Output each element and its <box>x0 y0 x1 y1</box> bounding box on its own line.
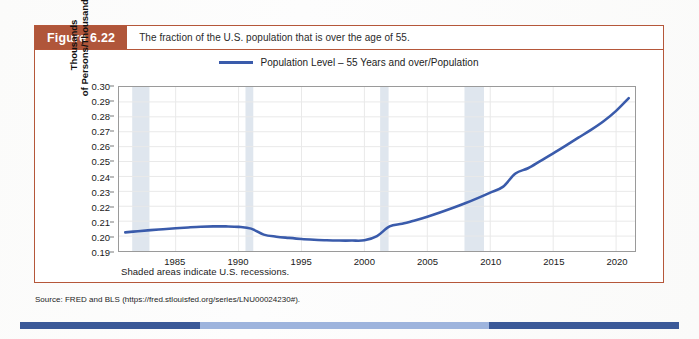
x-tick-label: 2015 <box>543 256 564 267</box>
y-tick-mark <box>110 146 114 147</box>
y-tick-label: 0.26 <box>92 141 111 152</box>
y-tick-label: 0.25 <box>92 156 111 167</box>
x-tick-label: 2005 <box>417 256 438 267</box>
recession-band <box>132 87 149 251</box>
y-tick-mark <box>110 86 114 87</box>
figure-header: Figure 6.22 The fraction of the U.S. pop… <box>35 26 663 50</box>
y-tick-mark <box>110 206 114 207</box>
y-tick-mark <box>110 161 114 162</box>
bottom-decorative-bar <box>20 322 679 329</box>
y-tick-mark <box>110 236 114 237</box>
legend-series-label: Population Level – 55 Years and over/Pop… <box>260 57 478 68</box>
bar-segment-right <box>489 322 679 329</box>
recession-band <box>464 87 484 251</box>
y-tick-mark <box>110 191 114 192</box>
y-tick-label: 0.20 <box>92 231 111 242</box>
figure-number-tag: Figure 6.22 <box>35 26 127 49</box>
recession-note: Shaded areas indicate U.S. recessions. <box>121 266 289 277</box>
x-tick-label: 1995 <box>291 256 312 267</box>
chart-legend: Population Level – 55 Years and over/Pop… <box>35 57 663 68</box>
figure-card: Figure 6.22 The fraction of the U.S. pop… <box>34 25 664 283</box>
y-tick-label: 0.27 <box>92 126 111 137</box>
y-tick-mark <box>110 252 114 253</box>
y-tick-label: 0.30 <box>92 81 111 92</box>
y-tick-label: 0.24 <box>92 171 111 182</box>
y-tick-mark <box>110 176 114 177</box>
y-tick-mark <box>110 116 114 117</box>
bar-segment-middle <box>200 322 489 329</box>
legend-line-swatch-icon <box>219 61 253 64</box>
figure-caption: The fraction of the U.S. population that… <box>127 26 663 49</box>
y-tick-mark <box>110 101 114 102</box>
y-tick-label: 0.23 <box>92 186 111 197</box>
x-tick-label: 2020 <box>606 256 627 267</box>
y-tick-label: 0.22 <box>92 201 111 212</box>
source-line: Source: FRED and BLS (https://fred.stlou… <box>35 295 300 304</box>
chart-body: Population Level – 55 Years and over/Pop… <box>35 50 663 283</box>
y-tick-label: 0.21 <box>92 216 111 227</box>
plot-area <box>118 86 636 252</box>
x-tick-label: 2000 <box>354 256 375 267</box>
x-tick-label: 2010 <box>480 256 501 267</box>
y-tick-mark <box>110 221 114 222</box>
y-tick-label: 0.29 <box>92 96 111 107</box>
y-tick-label: 0.19 <box>92 247 111 258</box>
y-axis-ticks: 0.190.200.210.220.230.240.250.260.270.28… <box>76 86 114 252</box>
y-tick-mark <box>110 131 114 132</box>
chart-svg <box>119 87 635 251</box>
bar-segment-left <box>20 322 200 329</box>
y-tick-label: 0.28 <box>92 111 111 122</box>
